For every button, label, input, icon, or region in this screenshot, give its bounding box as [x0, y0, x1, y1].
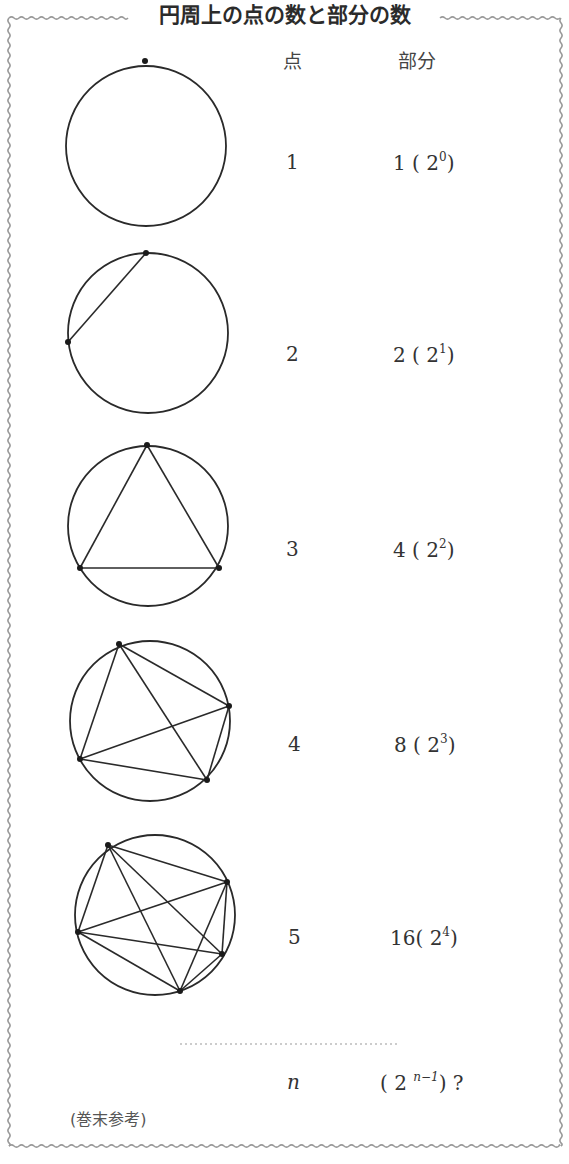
- row-4-points: 4: [288, 732, 301, 756]
- general-points: n: [287, 1070, 300, 1094]
- row-1-points: 1: [286, 150, 299, 174]
- point-dot: [75, 929, 81, 935]
- circle-diagram-2: [65, 250, 228, 413]
- point-dot: [143, 250, 149, 256]
- circle-diagram-4: [70, 641, 232, 801]
- row-5-points: 5: [288, 925, 301, 949]
- circle-diagram-1: [66, 58, 226, 226]
- point-dot: [116, 641, 122, 647]
- point-dot: [142, 58, 148, 64]
- row-1-regions: 1 ( 20): [393, 150, 454, 175]
- point-dot: [226, 703, 232, 709]
- row-2-regions: 2 ( 21): [393, 342, 454, 367]
- column-header-regions: 部分: [398, 46, 436, 73]
- point-dot: [177, 988, 183, 994]
- row-3-points: 3: [286, 537, 299, 561]
- point-dot: [216, 565, 222, 571]
- point-dot: [77, 756, 83, 762]
- appendix-note: (巻末参考): [70, 1106, 146, 1130]
- point-dot: [219, 951, 225, 957]
- column-header-points: 点: [283, 46, 302, 73]
- general-regions: ( 2 n−1) ?: [380, 1070, 464, 1095]
- row-3-regions: 4 ( 22): [393, 537, 454, 562]
- point-dot: [204, 777, 210, 783]
- row-5-regions: 16( 24): [390, 925, 458, 950]
- point-dot: [224, 879, 230, 885]
- point-dot: [77, 565, 83, 571]
- point-dot: [105, 842, 111, 848]
- circle-diagram-5: [75, 835, 235, 995]
- row-2-points: 2: [286, 342, 299, 366]
- point-dot: [144, 442, 150, 448]
- point-dot: [65, 339, 71, 345]
- wavy-border-frame: [0, 0, 569, 1164]
- row-4-regions: 8 ( 23): [394, 732, 455, 757]
- circle-diagram-3: [68, 442, 228, 606]
